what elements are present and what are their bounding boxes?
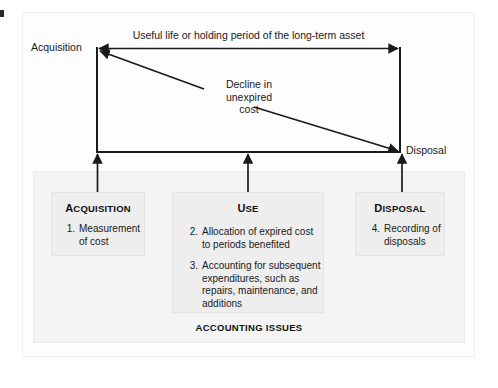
disposal-box-title-rest: ISPOSAL xyxy=(383,203,426,214)
disposal-point-label: Disposal xyxy=(406,144,446,157)
item-text: Accounting for subsequent expenditures, … xyxy=(202,260,323,310)
list-item: 4. Recording of disposals xyxy=(365,223,444,248)
use-item-list: 2. Allocation of expired cost to periods… xyxy=(183,226,323,310)
disposal-box-title: DISPOSAL xyxy=(356,202,444,214)
item-number: 3. xyxy=(183,260,202,310)
accounting-issues-caption: ACCOUNTING ISSUES xyxy=(33,322,465,333)
decline-label-line-2: unexpired xyxy=(203,91,295,104)
useful-life-caption: Useful life or holding period of the lon… xyxy=(96,29,401,42)
item-text: Allocation of expired cost to periods be… xyxy=(202,226,323,251)
acquisition-item-list: 1. Measurement of cost xyxy=(60,223,144,248)
decline-in-unexpired-cost-label: Decline in unexpired cost xyxy=(203,78,295,116)
list-item: 1. Measurement of cost xyxy=(60,223,144,248)
disposal-issue-box: DISPOSAL 4. Recording of disposals xyxy=(355,192,445,256)
item-number: 4. xyxy=(365,223,384,248)
use-box-title: USE xyxy=(173,202,323,214)
use-issue-box: USE 2. Allocation of expired cost to per… xyxy=(172,192,324,313)
item-text: Recording of disposals xyxy=(384,223,444,248)
page-corner-mark xyxy=(0,10,4,17)
use-box-title-rest: SE xyxy=(246,203,259,214)
acquisition-box-title: ACQUISITION xyxy=(52,202,144,214)
item-number: 2. xyxy=(183,226,202,251)
acquisition-point-label: Acquisition xyxy=(31,41,82,54)
decline-label-line-3: cost xyxy=(203,103,295,116)
acquisition-box-title-rest: CQUISITION xyxy=(73,203,130,214)
disposal-item-list: 4. Recording of disposals xyxy=(365,223,444,248)
rectangle-bottom-edge xyxy=(96,151,401,153)
item-text: Measurement of cost xyxy=(79,223,144,248)
disposal-box-title-initial: D xyxy=(374,202,382,214)
list-item: 2. Allocation of expired cost to periods… xyxy=(183,226,323,251)
rectangle-left-edge xyxy=(96,47,98,153)
item-number: 1. xyxy=(60,223,79,248)
use-box-title-initial: U xyxy=(237,202,245,214)
rectangle-right-edge xyxy=(399,47,401,153)
decline-label-line-1: Decline in xyxy=(203,78,295,91)
list-item: 3. Accounting for subsequent expenditure… xyxy=(183,260,323,310)
acquisition-issue-box: ACQUISITION 1. Measurement of cost xyxy=(51,192,145,256)
